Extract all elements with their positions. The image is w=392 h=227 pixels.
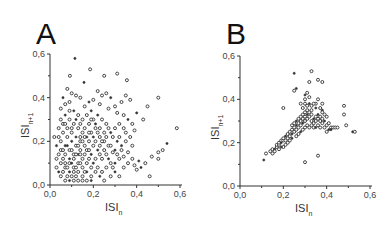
x-axis-label-b: ISIn [295,202,312,217]
data-point-a [98,153,101,156]
data-point-b [293,89,296,92]
y-tick-label-b: 0,6 [222,51,235,61]
data-point-b [317,78,320,81]
data-point-a [101,94,104,97]
data-point-b [323,120,325,122]
data-point-a [116,153,119,156]
data-point-a [105,136,108,139]
data-point-a [96,90,99,93]
data-point-a [122,166,125,169]
data-point-a [62,170,65,173]
data-point-b [301,128,304,131]
data-point-a [66,127,69,130]
data-point-b [288,135,291,138]
data-point-b [280,146,282,148]
data-point-b [299,102,302,105]
data-point-a [68,74,71,77]
x-tick-label-a: 0,6 [174,189,187,199]
data-point-a [107,127,110,130]
data-point-a [166,142,168,144]
data-point-a [79,136,82,139]
x-tick-label-a: 0,2 [87,189,100,199]
data-point-a [75,118,77,120]
data-point-a [114,171,116,173]
data-point-a [124,131,127,134]
x-tick-label-b: 0,0 [234,190,247,200]
data-point-a [94,170,97,173]
data-point-a [124,94,127,97]
y-tick-label-a: 0,2 [32,136,45,146]
data-point-a [62,97,64,99]
y-tick-label-a: 0,0 [32,180,45,190]
data-point-a [114,149,116,151]
data-point-a [101,170,104,173]
data-point-a [64,114,66,116]
data-point-a [81,140,84,143]
data-point-a [136,112,138,114]
data-point-b [302,122,304,124]
data-point-b [293,122,296,125]
data-point-a [101,118,104,121]
data-point-a [70,131,73,134]
data-point-a [161,149,164,152]
data-point-a [62,131,65,134]
data-point-a [88,157,91,160]
data-point-a [64,153,67,156]
data-point-a [77,179,80,182]
y-tick-label-b: 0,0 [222,181,235,191]
data-point-b [304,161,307,164]
data-point-b [304,111,307,114]
x-tick-label-a: 0,4 [130,189,143,199]
data-point-a [94,157,97,160]
data-point-a [103,149,106,152]
data-point-a [90,175,93,178]
data-point-a [127,162,130,165]
data-point-a [150,155,153,158]
data-point-a [55,145,57,147]
data-point-a [72,157,75,160]
data-point-a [81,131,84,134]
data-point-b [293,72,295,74]
data-point-b [263,159,265,161]
data-point-b [295,120,297,122]
data-point-b [310,113,313,116]
data-point-a [74,57,76,59]
data-point-a [55,166,58,169]
data-point-a [68,109,71,112]
data-point-a [111,151,114,154]
data-point-a [157,157,160,160]
data-point-b [295,87,297,89]
data-point-b [308,81,311,84]
data-point-a [70,127,73,130]
data-point-a [114,127,117,130]
data-point-a [125,79,128,82]
data-point-a [64,122,67,125]
data-point-a [57,127,60,130]
points-b [263,70,357,164]
data-point-b [291,133,293,135]
data-point-a [88,122,91,125]
data-point-a [88,140,91,143]
figure-scatter-panels: A 0,00,00,20,20,40,40,60,6 ISIn ISIn+1 B… [0,0,392,227]
data-point-a [59,107,62,110]
data-point-b [299,124,302,127]
data-point-a [90,166,93,169]
data-point-a [133,129,136,132]
data-point-a [157,151,160,154]
data-point-a [122,127,125,130]
data-point-b [284,135,286,137]
data-point-a [89,68,92,71]
data-point-a [103,131,106,134]
data-point-b [321,81,324,84]
data-point-b [321,102,324,105]
data-point-a [105,122,108,125]
data-point-a [70,175,73,178]
data-point-a [98,144,101,147]
data-point-a [66,145,68,147]
data-point-a [101,140,104,143]
data-point-b [295,135,298,138]
data-point-b [343,113,346,116]
data-point-b [353,130,356,133]
data-point-a [146,105,149,108]
data-point-a [92,144,95,147]
